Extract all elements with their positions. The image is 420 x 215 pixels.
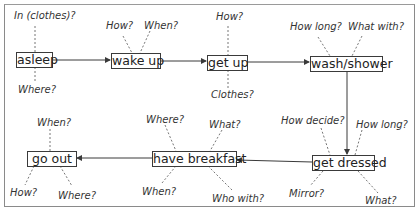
node-wash-shower: wash/shower [310, 56, 383, 72]
node-wake-up: wake up [111, 53, 161, 69]
question-getdressed-mirror: Mirror? [289, 188, 324, 200]
node-get-dressed: get dressed [312, 155, 375, 171]
question-getdressed-how-long: How long? [356, 119, 408, 131]
question-wash-how-long: How long? [290, 21, 342, 33]
question-asleep-where: Where? [18, 84, 56, 96]
flow-arrows [53, 60, 347, 162]
question-getdressed-how-decide: How decide? [281, 115, 345, 127]
arrow-getdressed-to-breakfast [237, 160, 312, 162]
question-getdressed-what: What? [365, 195, 397, 207]
node-get-up: get up [207, 55, 248, 71]
node-have-breakfast: have breakfast [152, 151, 237, 167]
question-getup-clothes: Clothes? [211, 89, 254, 101]
question-getup-how: How? [216, 11, 243, 23]
question-goout-where: Where? [58, 190, 96, 202]
question-breakfast-what: What? [209, 119, 241, 131]
node-asleep: asleep [16, 52, 53, 68]
question-breakfast-when: When? [142, 186, 176, 198]
question-asleep-in-clothes: In (clothes)? [14, 10, 76, 22]
question-wakeup-how: How? [106, 20, 133, 32]
question-goout-how: How? [10, 187, 37, 199]
question-wakeup-when: When? [144, 20, 178, 32]
node-go-out: go out [27, 151, 77, 167]
question-breakfast-where: Where? [146, 114, 184, 126]
question-wash-what-with: What with? [348, 21, 404, 33]
question-goout-when: When? [37, 117, 71, 129]
question-breakfast-who-with: Who with? [212, 193, 264, 205]
